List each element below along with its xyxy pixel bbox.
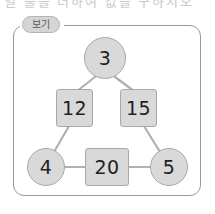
clipped-header-text: 열 물을 더하여 값을 구하시오	[4, 0, 194, 10]
node-left-upper-12[interactable]: 12	[56, 89, 93, 127]
node-bottom-left-4[interactable]: 4	[27, 148, 65, 186]
clipped-header-strip: 열 물을 더하여 값을 구하시오	[0, 0, 215, 14]
node-top-3[interactable]: 3	[84, 37, 126, 79]
legend-badge: 보기	[22, 16, 60, 33]
node-right-upper-15[interactable]: 15	[120, 89, 157, 127]
node-bottom-right-5[interactable]: 5	[150, 148, 188, 186]
node-bottom-mid-20[interactable]: 20	[85, 148, 129, 186]
